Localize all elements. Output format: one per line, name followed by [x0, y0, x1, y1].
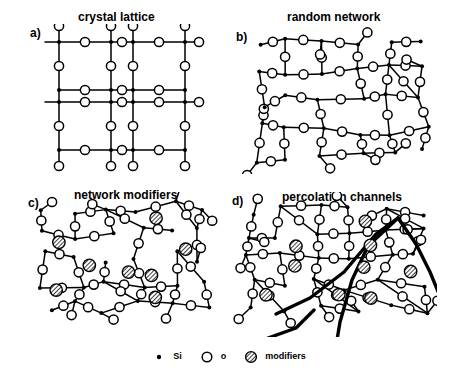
oxygen-node [265, 278, 274, 287]
oxygen-node [194, 37, 203, 46]
oxygen-node [316, 109, 325, 118]
oxygen-node [134, 269, 143, 278]
si-node [73, 212, 77, 216]
si-node [183, 40, 187, 44]
si-node [255, 161, 259, 165]
oxygen-node [180, 121, 189, 130]
oxygen-node [154, 85, 163, 94]
modifier-node [358, 261, 370, 273]
oxygen-node [106, 61, 115, 70]
oxygen-node [281, 52, 290, 61]
si-node [347, 257, 351, 261]
si-node [282, 125, 286, 129]
modifier-node [83, 259, 95, 271]
si-dot [150, 348, 168, 364]
modifier-node [145, 269, 157, 281]
oxygen-node [54, 24, 63, 31]
oxygen-node [70, 222, 79, 231]
si-node [131, 148, 135, 152]
oxygen-node [326, 164, 335, 173]
oxygen-node [363, 28, 372, 37]
si-node [346, 205, 350, 209]
si-node [320, 72, 324, 76]
oxygen-node [106, 24, 115, 31]
oxygen-node [337, 150, 346, 159]
oxygen-node [182, 210, 191, 219]
si-node [43, 249, 47, 253]
si-node [82, 286, 86, 290]
si-node [99, 311, 103, 315]
si-node [195, 226, 199, 230]
legend-label: modifiers [265, 351, 306, 361]
modifier-node [179, 243, 191, 255]
oxygen-node [47, 197, 56, 206]
oxygen-node [154, 37, 163, 46]
oxygen-node [80, 37, 89, 46]
oxygen-node [266, 157, 275, 166]
si-node [319, 39, 323, 43]
si-node [202, 280, 206, 284]
oxygen-node [173, 264, 182, 273]
oxygen-node [386, 49, 395, 58]
modifier-node [150, 212, 162, 224]
oxygen-node [180, 161, 189, 170]
si-node [133, 210, 137, 214]
si-node [73, 237, 77, 241]
si-node [420, 147, 424, 151]
random-network-diagram [236, 24, 436, 174]
oxygen-node [316, 50, 325, 59]
oxygen-node [270, 97, 279, 106]
oxygen-node [296, 201, 305, 210]
si-node [387, 63, 391, 67]
oxygen-node [268, 121, 277, 130]
si-node [249, 306, 253, 310]
si-node [279, 204, 283, 208]
oxygen-node [416, 235, 425, 244]
oxygen-node [195, 214, 204, 223]
oxygen-node [357, 139, 366, 148]
si-node [263, 105, 267, 109]
si-node [422, 226, 426, 230]
si-node [244, 253, 248, 257]
oxygen-node [253, 194, 262, 203]
network-modifiers-diagram [28, 192, 218, 337]
si-node [174, 199, 178, 203]
oxygen-node [54, 61, 63, 70]
panel-c-network-modifiers [28, 192, 218, 337]
oxygen-node [105, 217, 114, 226]
oxygen-node [397, 91, 406, 100]
oxygen-node [106, 161, 115, 170]
oxygen-node [286, 318, 295, 327]
si-node [131, 88, 135, 92]
oxygen-node [419, 108, 428, 117]
oxygen-node [278, 265, 287, 274]
oxygen-node [153, 225, 162, 234]
oxygen-node [332, 192, 341, 200]
oxygen-node [84, 303, 93, 312]
oxygen-node [100, 267, 109, 276]
oxygen-node [383, 75, 392, 84]
oxygen-circle [198, 348, 216, 364]
si-node [57, 100, 61, 104]
si-node [104, 260, 108, 264]
oxygen-node [74, 268, 83, 277]
modifier-node [149, 291, 161, 303]
oxygen-node [89, 280, 98, 289]
si-node [283, 73, 287, 77]
oxygen-node [75, 290, 84, 299]
oxygen-node [315, 215, 324, 224]
oxygen-node [180, 24, 189, 31]
si-node [376, 278, 380, 282]
si-node [170, 228, 174, 232]
legend-item-modifier-hatched-circle: modifiers [242, 348, 306, 364]
oxygen-node [38, 265, 47, 274]
legend-item-si-dot: Si [150, 348, 182, 364]
si-node [388, 133, 392, 137]
oxygen-node [234, 314, 243, 323]
modifier-node [50, 284, 62, 296]
modifier-node [404, 265, 416, 277]
si-node [142, 226, 146, 230]
oxygen-node [151, 202, 160, 211]
si-node [411, 252, 415, 256]
oxygen-node [247, 222, 256, 231]
